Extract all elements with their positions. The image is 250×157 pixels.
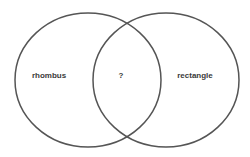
rhombus-label: rhombus xyxy=(32,71,66,80)
right-circle xyxy=(93,13,239,147)
left-circle xyxy=(15,13,161,147)
rectangle-label: rectangle xyxy=(177,71,213,80)
intersection-label: ? xyxy=(119,71,124,80)
